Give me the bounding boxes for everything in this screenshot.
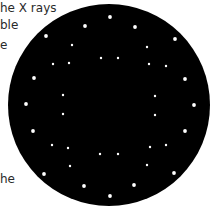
inner-spot — [99, 153, 101, 155]
outer-spot — [132, 183, 136, 187]
outer-spot — [31, 129, 35, 133]
inner-spot — [62, 113, 64, 115]
inner-spot — [69, 165, 71, 167]
inner-spot — [148, 63, 150, 65]
inner-spot — [67, 147, 69, 149]
inner-spot — [52, 63, 54, 65]
inner-spot — [154, 95, 156, 97]
outer-spot — [108, 15, 112, 19]
inner-spot — [100, 57, 102, 59]
outer-spot — [183, 129, 187, 133]
inner-spot — [62, 94, 64, 96]
outer-spot — [133, 25, 137, 29]
inner-spot — [146, 46, 148, 48]
outer-spot — [108, 194, 112, 198]
inner-spot — [51, 144, 53, 146]
outer-spot — [32, 76, 36, 80]
inner-spot — [146, 164, 148, 166]
inner-spot — [71, 44, 73, 46]
inner-spot — [149, 146, 151, 148]
inner-spot — [165, 144, 167, 146]
outer-spot — [42, 172, 46, 176]
outer-spot — [183, 77, 187, 81]
outer-spot — [83, 24, 87, 28]
inner-spot — [165, 65, 167, 67]
diffraction-disc — [8, 4, 210, 206]
outer-spot — [192, 103, 196, 107]
outer-spot — [44, 34, 48, 38]
inner-spot — [68, 62, 70, 64]
outer-spot — [172, 171, 176, 175]
inner-spot — [154, 114, 156, 116]
inner-spot — [117, 153, 119, 155]
outer-spot — [24, 102, 28, 106]
outer-spot — [82, 184, 86, 188]
laue-diffraction-pattern — [0, 0, 211, 216]
inner-spot — [117, 57, 119, 59]
outer-spot — [173, 37, 177, 41]
